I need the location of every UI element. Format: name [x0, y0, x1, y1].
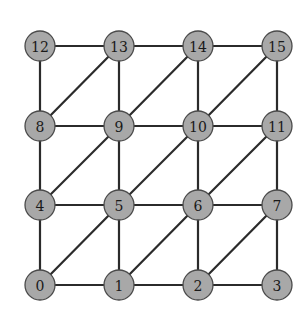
node-8: 8 [25, 111, 55, 141]
node-13: 13 [104, 31, 134, 61]
node-15: 15 [262, 31, 292, 61]
node-7: 7 [262, 190, 292, 220]
node-1: 1 [104, 270, 134, 300]
node-label: 2 [194, 278, 203, 294]
node-10: 10 [183, 111, 213, 141]
edges-group [40, 46, 277, 285]
edge-4-9 [40, 126, 119, 205]
edge-10-15 [198, 46, 277, 126]
node-4: 4 [25, 190, 55, 220]
edge-5-10 [119, 126, 198, 205]
node-11: 11 [262, 111, 292, 141]
edge-1-6 [119, 205, 198, 285]
edge-8-13 [40, 46, 119, 126]
node-label: 10 [189, 119, 207, 135]
node-label: 4 [36, 198, 45, 214]
node-label: 11 [268, 119, 286, 135]
edge-2-7 [198, 205, 277, 285]
node-label: 8 [36, 119, 45, 135]
node-label: 12 [31, 39, 49, 55]
node-6: 6 [183, 190, 213, 220]
node-label: 9 [115, 119, 124, 135]
edge-6-11 [198, 126, 277, 205]
node-label: 7 [273, 198, 282, 214]
node-label: 15 [268, 39, 286, 55]
node-label: 1 [115, 278, 124, 294]
node-14: 14 [183, 31, 213, 61]
edge-9-14 [119, 46, 198, 126]
node-label: 5 [115, 198, 124, 214]
node-label: 0 [36, 278, 45, 294]
node-12: 12 [25, 31, 55, 61]
node-3: 3 [262, 270, 292, 300]
node-2: 2 [183, 270, 213, 300]
node-0: 0 [25, 270, 55, 300]
node-label: 3 [273, 278, 282, 294]
edge-0-5 [40, 205, 119, 285]
graph-diagram: 0123456789101112131415 [0, 0, 308, 316]
node-label: 14 [189, 39, 207, 55]
node-label: 6 [194, 198, 203, 214]
node-label: 13 [110, 39, 128, 55]
node-5: 5 [104, 190, 134, 220]
node-9: 9 [104, 111, 134, 141]
